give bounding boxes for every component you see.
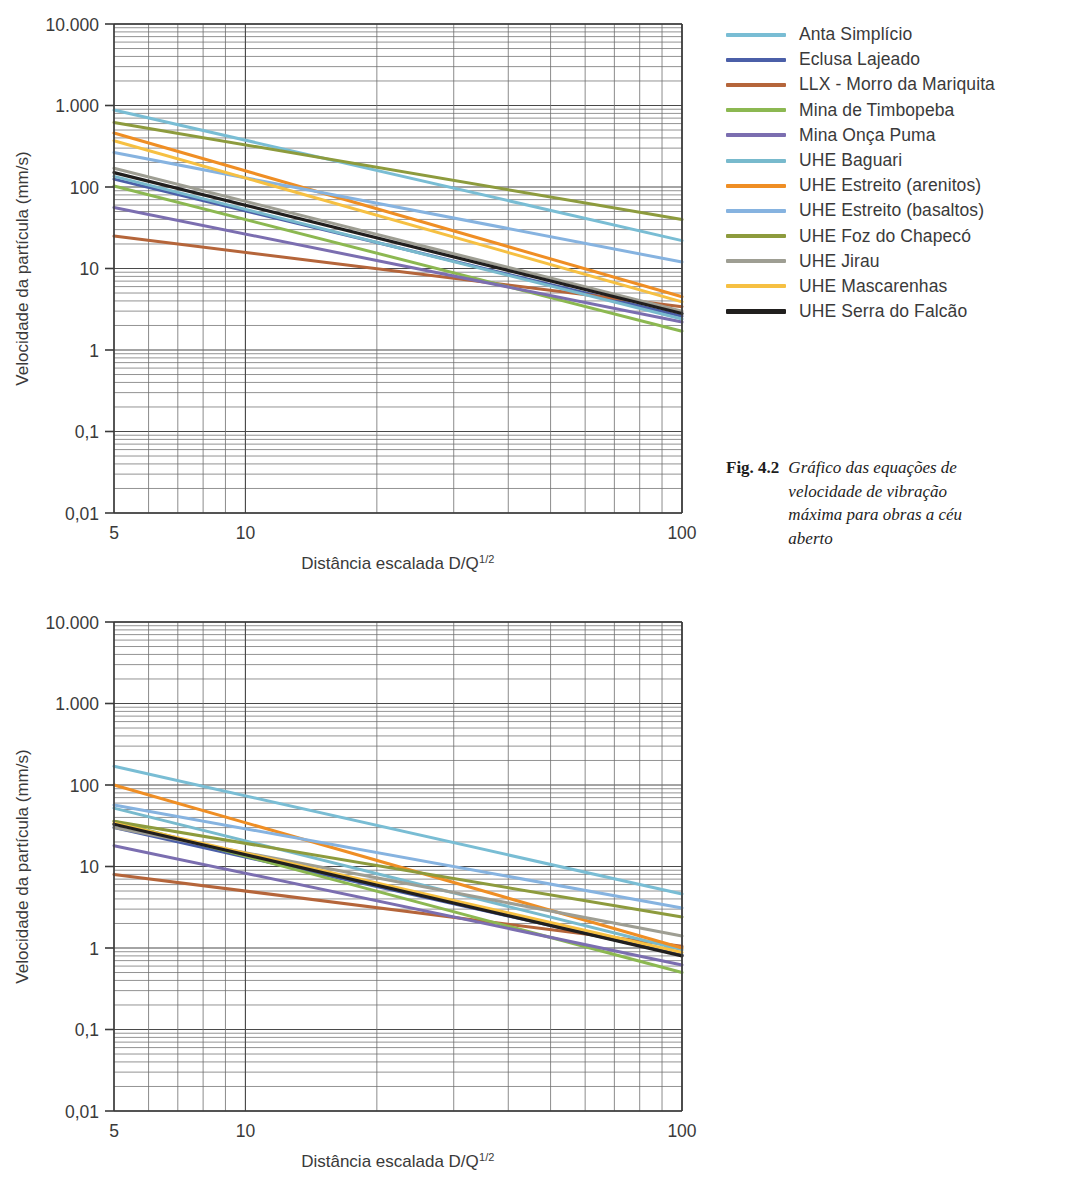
x-tick-label: 100 (667, 523, 696, 543)
legend-color-swatch (726, 83, 786, 87)
legend-color-swatch (726, 108, 786, 112)
y-axis-title: Velocidade da partícula (mm/s) (13, 749, 32, 983)
legend-color-swatch (726, 284, 786, 288)
log-log-chart-max-velocity: 0,010,11101001.00010.000510100Velocidade… (0, 0, 700, 598)
chart-series-group (114, 110, 682, 331)
legend-item: UHE Baguari (726, 148, 1062, 173)
figure-4-3: 0,010,11101001.00010.000510100Velocidade… (0, 598, 1066, 1196)
y-tick-label: 100 (70, 776, 99, 796)
legend-item: UHE Estreito (arenitos) (726, 173, 1062, 198)
y-tick-label: 100 (70, 178, 99, 198)
x-tick-label: 5 (109, 523, 119, 543)
y-tick-label: 10.000 (45, 613, 99, 633)
legend-item-label: LLX - Morro da Mariquita (799, 74, 995, 95)
legend-item-label: UHE Estreito (basaltos) (799, 200, 984, 221)
legend-item: Mina Onça Puma (726, 123, 1062, 148)
legend-item: UHE Estreito (basaltos) (726, 198, 1062, 223)
svg-text:1/2: 1/2 (479, 553, 494, 565)
caption-number: Fig. 4.2 (726, 456, 779, 480)
legend-item-label: UHE Jirau (799, 251, 880, 272)
legend-color-swatch (726, 159, 786, 163)
legend-color-swatch (726, 309, 786, 314)
y-axis-title: Velocidade da partícula (mm/s) (13, 151, 32, 385)
legend-color-swatch (726, 133, 786, 137)
legend-color-swatch (726, 33, 786, 37)
x-axis-ticks: 510100 (109, 1121, 697, 1141)
legend-item-label: UHE Baguari (799, 150, 902, 171)
legend-item: UHE Foz do Chapecó (726, 224, 1062, 249)
svg-text:Distância escalada D/Q: Distância escalada D/Q (301, 554, 479, 573)
y-tick-label: 0,1 (75, 1020, 99, 1040)
y-tick-label: 0,01 (65, 1102, 99, 1122)
y-axis-ticks: 0,010,11101001.00010.000 (45, 15, 114, 524)
y-tick-label: 10 (80, 857, 100, 877)
x-tick-label: 100 (667, 1121, 696, 1141)
log-log-chart-mean-velocity: 0,010,11101001.00010.000510100Velocidade… (0, 598, 700, 1196)
legend-item: UHE Jirau (726, 249, 1062, 274)
caption-text: Gráfico das equações de velocidade de vi… (788, 456, 993, 550)
legend-item: UHE Serra do Falcão (726, 299, 1062, 324)
legend-item-label: UHE Foz do Chapecó (799, 226, 971, 247)
series-line (114, 168, 682, 311)
x-tick-label: 5 (109, 1121, 119, 1141)
legend-item-label: UHE Serra do Falcão (799, 301, 967, 322)
chart-gridlines (114, 24, 682, 513)
y-tick-label: 1 (89, 939, 99, 959)
legend-item: LLX - Morro da Mariquita (726, 72, 1062, 97)
legend-color-swatch (726, 234, 786, 238)
x-axis-title: Distância escalada D/Q1/2 (301, 553, 494, 573)
svg-text:1/2: 1/2 (479, 1151, 494, 1163)
legend-color-swatch (726, 209, 786, 213)
legend-color-swatch (726, 58, 786, 62)
y-tick-label: 1.000 (55, 694, 99, 714)
series-line (114, 846, 682, 965)
series-line (114, 173, 682, 314)
chart-legend-1: Anta SimplícioEclusa LajeadoLLX - Morro … (726, 22, 1062, 324)
legend-item-label: Mina Onça Puma (799, 125, 936, 146)
legend-color-swatch (726, 259, 786, 263)
legend-color-swatch (726, 184, 786, 188)
x-axis-ticks: 510100 (109, 523, 697, 543)
legend-item-label: UHE Mascarenhas (799, 276, 947, 297)
series-line (114, 824, 682, 956)
legend-item: Anta Simplício (726, 22, 1062, 47)
legend-item: UHE Mascarenhas (726, 274, 1062, 299)
legend-item-label: Anta Simplício (799, 24, 912, 45)
series-line (114, 208, 682, 323)
series-line (114, 821, 682, 917)
y-tick-label: 10.000 (45, 15, 99, 35)
legend-item: Mina de Timbopeba (726, 98, 1062, 123)
y-tick-label: 1.000 (55, 96, 99, 116)
legend-item-label: Mina de Timbopeba (799, 100, 954, 121)
x-tick-label: 10 (236, 523, 256, 543)
y-axis-ticks: 0,010,11101001.00010.000 (45, 613, 114, 1122)
chart-area-1: 0,010,11101001.00010.000510100Velocidade… (0, 0, 700, 598)
y-tick-label: 0,1 (75, 422, 99, 442)
chart-area-2: 0,010,11101001.00010.000510100Velocidade… (0, 598, 700, 1196)
x-tick-label: 10 (236, 1121, 256, 1141)
chart-series-group (114, 766, 682, 972)
y-tick-label: 1 (89, 341, 99, 361)
legend-item: Eclusa Lajeado (726, 47, 1062, 72)
y-tick-label: 10 (80, 259, 100, 279)
figure-caption-1: Fig. 4.2 Gráfico das equações de velocid… (726, 456, 1056, 550)
legend-item-label: Eclusa Lajeado (799, 49, 920, 70)
y-tick-label: 0,01 (65, 504, 99, 524)
x-axis-title: Distância escalada D/Q1/2 (301, 1151, 494, 1171)
legend-item-label: UHE Estreito (arenitos) (799, 175, 981, 196)
svg-text:Distância escalada D/Q: Distância escalada D/Q (301, 1152, 479, 1171)
figure-4-2: 0,010,11101001.00010.000510100Velocidade… (0, 0, 1066, 598)
